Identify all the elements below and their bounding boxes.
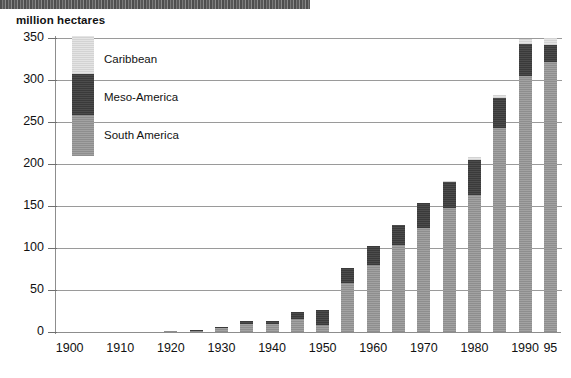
x-tick-label: 1960 [348,341,398,355]
bar-segment-south-america [367,265,380,332]
gridline [56,38,562,39]
bar-segment-meso-america [519,44,532,76]
x-tick-label: 1950 [298,341,348,355]
y-tick-label: 150 [0,198,44,212]
y-tick-mark [48,206,57,207]
legend-label-meso-america: Meso-America [104,91,178,103]
bar-1990 [519,39,532,332]
x-tick-label: 1940 [247,341,297,355]
y-tick-mark [48,38,57,39]
x-tick-label: 1970 [399,341,449,355]
bar-segment-south-america [164,331,177,332]
bar-1935 [240,321,253,332]
bar-segment-meso-america [341,268,354,283]
bar-segment-south-america [266,324,279,332]
y-tick-mark [48,248,57,249]
bar-1940 [266,321,279,332]
x-tick-label: 95 [525,341,571,355]
bar-1970 [417,203,430,332]
y-tick-label: 50 [0,282,44,296]
gridline [56,80,562,81]
bar-1920 [164,331,177,332]
bar-segment-south-america [392,245,405,332]
bar-segment-south-america [316,325,329,332]
y-tick-mark [48,290,57,291]
x-tick-label: 1980 [449,341,499,355]
bar-segment-meso-america [392,225,405,244]
legend-label-caribbean: Caribbean [104,53,157,65]
bar-segment-meso-america [316,310,329,325]
x-tick-label: 1930 [196,341,246,355]
bar-1955 [341,268,354,332]
y-tick-label: 300 [0,72,44,86]
bar-1945 [291,312,304,332]
gridline [56,290,562,291]
bar-segment-south-america [544,62,557,332]
bar-1985 [493,95,506,332]
legend-label-south-america: South America [104,129,179,141]
bar-segment-meso-america [443,182,456,207]
bar-segment-south-america [417,228,430,332]
legend-swatch-stack [72,36,94,156]
bar-segment-meso-america [291,312,304,320]
bar-segment-meso-america [417,203,430,227]
gridline [56,206,562,207]
bar-segment-meso-america [367,246,380,264]
y-tick-label: 0 [0,324,44,338]
x-tick-label: 1920 [146,341,196,355]
y-tick-mark [48,80,57,81]
gridline [56,164,562,165]
bar-1965 [392,225,405,332]
bar-segment-meso-america [493,98,506,128]
legend-swatch-south-america [72,115,94,156]
y-tick-label: 250 [0,114,44,128]
bar-segment-south-america [493,128,506,332]
bar-segment-south-america [190,331,203,332]
bar-segment-south-america [519,76,532,332]
legend-swatch-meso-america [72,74,94,115]
chart-root: million hectares 350300250200150100500 1… [0,0,571,378]
bar-1950 [316,310,329,332]
bar-1925 [190,330,203,332]
bar-segment-caribbean [544,38,557,45]
y-tick-label: 100 [0,240,44,254]
x-tick-label: 1900 [45,341,95,355]
bar-segment-meso-america [544,45,557,62]
bar-segment-meso-america [468,160,481,195]
bar-segment-south-america [215,328,228,332]
bar-1960 [367,246,380,332]
legend-swatch-caribbean [72,36,94,74]
y-tick-label: 350 [0,30,44,44]
bar-segment-south-america [468,195,481,332]
bar-segment-south-america [240,324,253,332]
bar-1930 [215,327,228,332]
y-tick-mark [48,332,57,333]
bar-segment-south-america [341,283,354,332]
x-tick-label: 1910 [95,341,145,355]
y-tick-mark [48,122,57,123]
bar-1980 [468,157,481,332]
y-tick-label: 200 [0,156,44,170]
bar-1975 [443,181,456,332]
gridline [56,248,562,249]
x-axis-line [55,332,561,333]
bar-segment-south-america [443,208,456,332]
gridline [56,122,562,123]
bar-1995 [544,38,557,332]
bar-segment-south-america [291,319,304,332]
y-tick-mark [48,164,57,165]
